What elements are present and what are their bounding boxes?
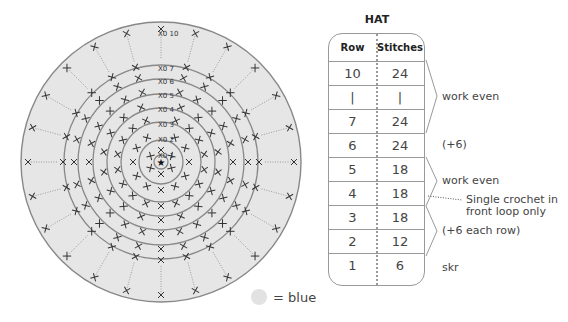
note-skr: skr bbox=[442, 261, 459, 274]
note-single-crochet-2: front loop only bbox=[466, 205, 546, 218]
row-brackets bbox=[0, 0, 568, 322]
note-work-even-mid: work even bbox=[442, 174, 499, 187]
note-work-even-top: work even bbox=[442, 90, 499, 103]
note-plus6-each-row: (+6 each row) bbox=[442, 224, 520, 237]
note-plus6: (+6) bbox=[442, 138, 467, 151]
